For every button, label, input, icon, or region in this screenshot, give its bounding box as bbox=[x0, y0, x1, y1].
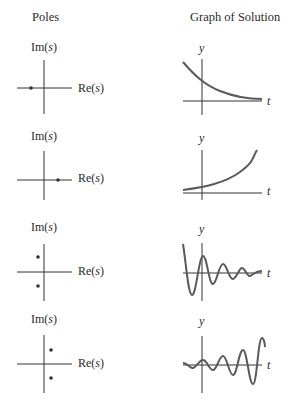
solution-graph-row-3 bbox=[183, 243, 262, 301]
pole-marker bbox=[36, 255, 40, 259]
pole-marker bbox=[56, 178, 60, 182]
poles-and-solutions-figure bbox=[0, 0, 291, 406]
pole-marker bbox=[49, 348, 53, 352]
pole-marker bbox=[36, 284, 40, 288]
solution-graph-row-4 bbox=[183, 336, 265, 393]
solution-graph-row-2 bbox=[183, 150, 262, 200]
pole-marker bbox=[49, 376, 53, 380]
growth-curve bbox=[183, 150, 257, 190]
pole-plot-row-4 bbox=[17, 335, 72, 393]
pole-plot-row-3 bbox=[17, 244, 72, 301]
decaying-oscillation-curve bbox=[183, 244, 262, 295]
pole-marker bbox=[29, 86, 33, 90]
pole-plot-row-2 bbox=[17, 151, 72, 200]
growing-oscillation-curve bbox=[183, 338, 265, 384]
pole-plot-row-1 bbox=[17, 60, 72, 114]
decay-curve bbox=[183, 62, 262, 99]
solution-graph-row-1 bbox=[183, 59, 262, 115]
